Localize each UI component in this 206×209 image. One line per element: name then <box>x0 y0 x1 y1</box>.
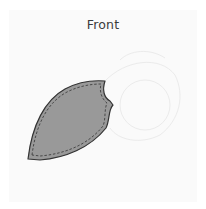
sewing-pattern-diagram <box>0 0 206 209</box>
ghost-garment-outline <box>105 51 180 140</box>
pattern-piece-shape <box>28 81 113 160</box>
